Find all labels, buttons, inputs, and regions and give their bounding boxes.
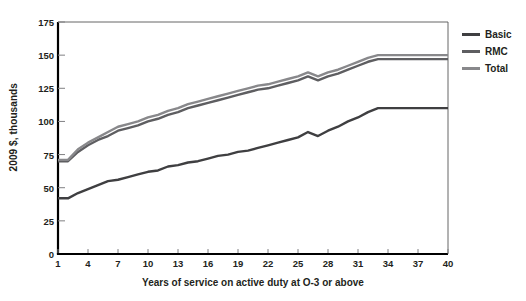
x-axis-tick-label: 25 (283, 258, 313, 269)
x-axis-title: Years of service on active duty at O-3 o… (58, 277, 448, 288)
x-axis-tick-label: 16 (193, 258, 223, 269)
chart-legend: BasicRMCTotal (462, 26, 526, 77)
legend-label: Total (485, 63, 508, 74)
series-line-basic (58, 108, 448, 198)
legend-swatch-icon (462, 50, 480, 53)
chart-figure: 2009 $, thousands 0255075100125150175 14… (0, 0, 526, 301)
x-axis-tick-label: 22 (253, 258, 283, 269)
x-axis-tick-label: 40 (433, 258, 463, 269)
x-axis-tick-label: 7 (103, 258, 133, 269)
x-axis-tick-label: 4 (73, 258, 103, 269)
legend-item-total[interactable]: Total (462, 60, 526, 77)
legend-item-basic[interactable]: Basic (462, 26, 526, 43)
legend-swatch-icon (462, 33, 480, 36)
x-axis-tick-label: 28 (313, 258, 343, 269)
x-axis-tick-label: 10 (133, 258, 163, 269)
legend-swatch-icon (462, 67, 480, 70)
series-line-rmc (58, 59, 448, 161)
plot-area (0, 0, 526, 301)
x-axis-tick-label: 34 (373, 258, 403, 269)
x-axis-tick-label: 37 (403, 258, 433, 269)
x-axis-tick-label: 1 (43, 258, 73, 269)
x-axis-tick-label: 19 (223, 258, 253, 269)
legend-label: RMC (485, 46, 508, 57)
x-axis-tick-label: 13 (163, 258, 193, 269)
legend-label: Basic (485, 29, 512, 40)
legend-item-rmc[interactable]: RMC (462, 43, 526, 60)
x-axis-tick-label: 31 (343, 258, 373, 269)
